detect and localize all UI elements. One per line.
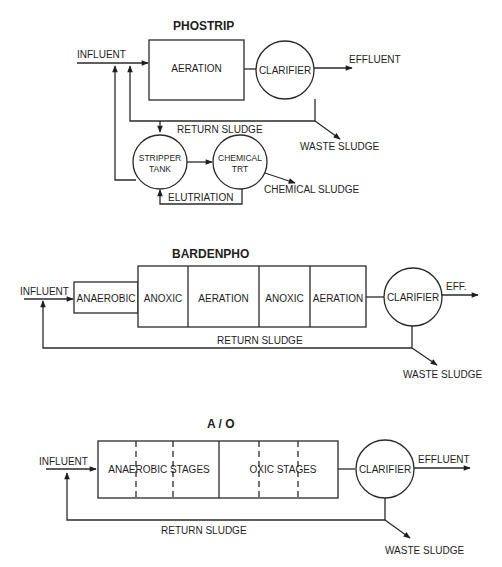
ao-diagram: A / O INFLUENT ANAEROBIC STAGES OXIC STA…: [39, 417, 470, 556]
bardenpho-clarifier-label: CLARIFIER: [387, 292, 439, 303]
bardenpho-stage-label: ANOXIC: [265, 293, 303, 304]
phostrip-effluent-label: EFFLUENT: [349, 54, 401, 65]
ao-anaerobic-label: ANAEROBIC STAGES: [108, 464, 210, 475]
ao-waste-sludge-arrow: [385, 520, 410, 538]
bardenpho-stage-label: ANOXIC: [144, 293, 182, 304]
phostrip-clarifier-label: CLARIFIER: [259, 65, 311, 76]
process-diagrams: PHOSTRIP INFLUENT AERATION CLARIFIER EFF…: [0, 0, 502, 567]
phostrip-elutriation-label: ELUTRIATION: [168, 192, 233, 203]
ao-clarifier-label: CLARIFIER: [359, 464, 411, 475]
bardenpho-influent-label: INFLUENT: [20, 286, 69, 297]
ao-oxic-label: OXIC STAGES: [249, 464, 316, 475]
phostrip-waste-sludge-label: WASTE SLUDGE: [300, 141, 379, 152]
ao-return-sludge-label: RETURN SLUDGE: [161, 525, 247, 536]
bardenpho-effluent-label: EFF.: [446, 281, 467, 292]
bardenpho-title: BARDENPHO: [172, 247, 249, 261]
bardenpho-stage-label: ANAEROBIC: [77, 293, 136, 304]
phostrip-chemical-sludge-arrow: [265, 173, 295, 183]
phostrip-return-sludge-label: RETURN SLUDGE: [177, 124, 263, 135]
phostrip-influent-label: INFLUENT: [77, 49, 126, 60]
phostrip-aeration-label: AERATION: [171, 63, 221, 74]
phostrip-chemical-label-1: CHEMICAL: [218, 153, 262, 163]
bardenpho-waste-sludge-label: WASTE SLUDGE: [403, 369, 482, 380]
phostrip-chemical-label-2: TRT: [232, 164, 248, 174]
phostrip-title: PHOSTRIP: [173, 19, 234, 33]
bardenpho-waste-sludge-arrow: [412, 348, 437, 365]
bardenpho-stage-label: AERATION: [313, 293, 363, 304]
phostrip-diagram: PHOSTRIP INFLUENT AERATION CLARIFIER EFF…: [77, 19, 401, 204]
phostrip-waste-sludge-arrow: [315, 121, 340, 139]
phostrip-chemical-sludge-label: CHEMICAL SLUDGE: [264, 184, 360, 195]
ao-title: A / O: [207, 417, 235, 431]
bardenpho-return-sludge-label: RETURN SLUDGE: [217, 335, 303, 346]
bardenpho-diagram: BARDENPHO INFLUENT ANAEROBIC ANOXIC AERA…: [20, 247, 482, 380]
ao-effluent-label: EFFLUENT: [418, 454, 470, 465]
phostrip-stripper-label-1: STRIPPER: [139, 153, 182, 163]
bardenpho-stage-label: AERATION: [198, 293, 248, 304]
phostrip-stripper-label-2: TANK: [149, 164, 171, 174]
ao-waste-sludge-label: WASTE SLUDGE: [385, 545, 464, 556]
ao-influent-label: INFLUENT: [39, 456, 88, 467]
